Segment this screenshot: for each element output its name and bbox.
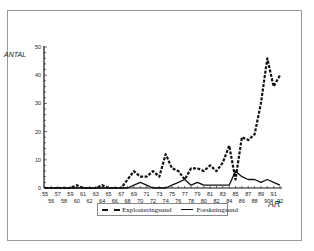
svg-text:86: 86 <box>239 198 245 204</box>
series-line-forskningsund <box>45 171 280 188</box>
dashed-line-swatch-icon <box>102 209 120 211</box>
svg-text:85: 85 <box>232 191 238 197</box>
svg-text:61: 61 <box>80 191 86 197</box>
series-line-exploateringsund <box>45 58 280 188</box>
svg-text:0: 0 <box>38 185 41 191</box>
y-axis-title: ANTAL <box>3 51 26 58</box>
legend-label: Forskningsund <box>196 206 238 214</box>
svg-text:89: 89 <box>258 191 264 197</box>
svg-text:71: 71 <box>144 191 150 197</box>
svg-text:59: 59 <box>67 191 73 197</box>
svg-text:56: 56 <box>48 198 54 204</box>
svg-text:81: 81 <box>207 191 213 197</box>
svg-text:87: 87 <box>245 191 251 197</box>
svg-text:63: 63 <box>93 191 99 197</box>
svg-text:60: 60 <box>74 198 80 204</box>
legend-label: Exploateringsund <box>122 206 171 214</box>
svg-text:30: 30 <box>35 100 41 106</box>
svg-text:91: 91 <box>271 191 277 197</box>
solid-line-swatch-icon <box>181 209 193 210</box>
svg-text:79: 79 <box>194 191 200 197</box>
svg-text:10: 10 <box>35 157 41 163</box>
svg-text:40: 40 <box>35 72 41 78</box>
svg-text:69: 69 <box>131 191 137 197</box>
legend-item-forskningsund: Forskningsund <box>181 206 238 214</box>
svg-text:55: 55 <box>42 191 48 197</box>
svg-text:83: 83 <box>220 191 226 197</box>
svg-text:77: 77 <box>182 191 188 197</box>
legend-item-exploateringsund: Exploateringsund <box>102 206 171 214</box>
chart-legend: Exploateringsund Forskningsund <box>97 203 228 216</box>
axes: 0102030405055575961636567697173757779818… <box>35 44 283 204</box>
svg-text:67: 67 <box>118 191 124 197</box>
series-lines <box>45 58 280 188</box>
svg-text:75: 75 <box>169 191 175 197</box>
svg-text:73: 73 <box>156 191 162 197</box>
svg-text:57: 57 <box>55 191 61 197</box>
svg-text:20: 20 <box>35 129 41 135</box>
svg-text:58: 58 <box>61 198 67 204</box>
svg-text:65: 65 <box>105 191 111 197</box>
svg-text:62: 62 <box>86 198 92 204</box>
svg-text:50: 50 <box>35 44 41 50</box>
svg-text:88: 88 <box>252 198 258 204</box>
x-axis-title: ÅR <box>267 199 281 209</box>
